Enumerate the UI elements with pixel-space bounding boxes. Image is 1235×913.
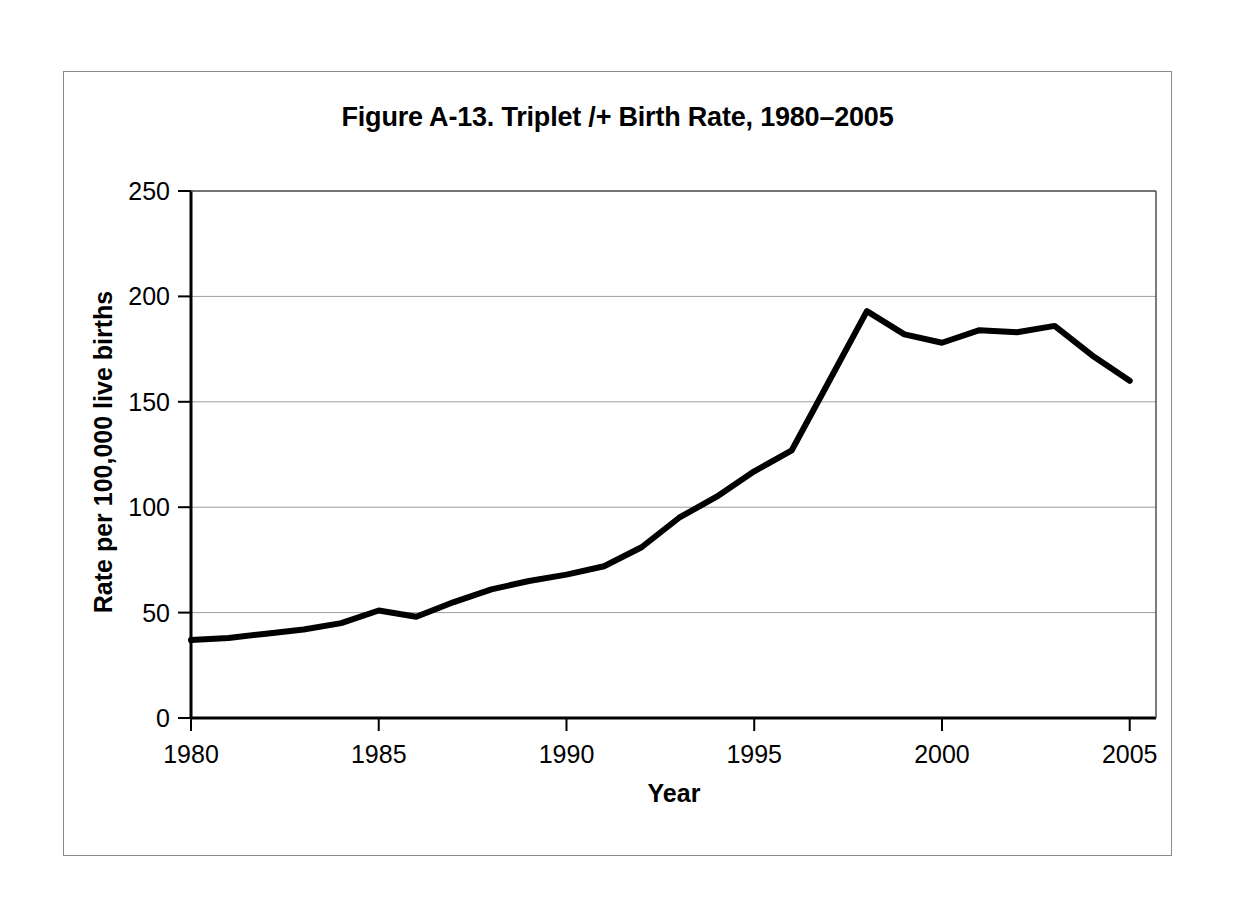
- figure-outer-frame: Figure A-13. Triplet /+ Birth Rate, 1980…: [63, 71, 1172, 856]
- x-axis-tick-label: 1995: [726, 740, 782, 768]
- y-axis-tick-label: 100: [128, 493, 170, 521]
- x-axis-tick-label: 1980: [163, 740, 219, 768]
- y-axis-title: Rate per 100,000 live births: [89, 291, 117, 613]
- y-axis-tick-labels: 050100150200250: [128, 177, 170, 732]
- x-axis-tick-labels: 198019851990199520002005: [163, 740, 1157, 768]
- y-axis-tick-label: 200: [128, 282, 170, 310]
- y-axis-tick-label: 50: [142, 599, 170, 627]
- series-line-triplet-birth-rate: [191, 311, 1130, 640]
- x-axis-title: Year: [648, 779, 701, 807]
- data-series-line: [191, 311, 1130, 640]
- x-axis-ticks-group: [191, 718, 1130, 731]
- x-axis-tick-label: 2005: [1102, 740, 1158, 768]
- plot-area-frame: [191, 191, 1156, 718]
- figure-root: Figure A-13. Triplet /+ Birth Rate, 1980…: [0, 0, 1235, 913]
- x-axis-tick-label: 1985: [351, 740, 407, 768]
- y-axis-tick-label: 250: [128, 177, 170, 205]
- x-axis-tick-label: 2000: [914, 740, 970, 768]
- y-axis-tick-label: 150: [128, 388, 170, 416]
- line-chart-plot: 050100150200250 198019851990199520002005…: [64, 72, 1173, 857]
- y-axis-tick-label: 0: [156, 704, 170, 732]
- gridlines-group: [191, 296, 1156, 612]
- x-axis-tick-label: 1990: [539, 740, 595, 768]
